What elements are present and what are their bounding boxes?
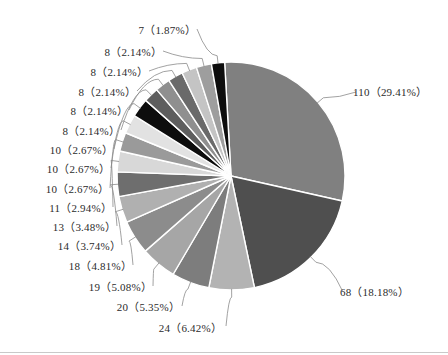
pie-chart-figure: 7（1.87%） 8（2.14%） 8（2.14%） 8（2.14%） 8（2.…: [0, 0, 448, 355]
slice-label-13: 13（3.48%）: [16, 221, 116, 233]
slice-label-10-a: 10（2.67%）: [13, 144, 113, 156]
leader-line: [153, 263, 159, 286]
slice-label-19: 19（5.08%）: [52, 281, 152, 293]
pie-slice-group: [117, 62, 345, 290]
slice-label-8-c: 8（2.14%）: [36, 86, 136, 98]
slice-label-68: 68（18.18%）: [340, 286, 409, 298]
leader-line: [182, 282, 191, 307]
leader-line: [163, 51, 204, 66]
slice-label-8-a: 8（2.14%）: [62, 46, 162, 58]
slice-label-10-b: 10（2.67%）: [10, 163, 110, 175]
slice-label-110: 110（29.41%）: [353, 86, 427, 98]
leader-line: [310, 256, 343, 292]
slice-label-8-b: 8（2.14%）: [48, 66, 148, 78]
slice-label-10-c: 10（2.67%）: [9, 183, 109, 195]
leader-line: [317, 92, 356, 103]
slice-label-14: 14（3.74%）: [21, 240, 121, 252]
slice-label-8-e: 8（2.14%）: [20, 125, 120, 137]
leader-line: [226, 289, 232, 326]
slice-label-8-d: 8（2.14%）: [28, 105, 128, 117]
slice-label-20: 20（5.35%）: [80, 301, 180, 313]
leader-line: [149, 63, 190, 71]
bottom-divider: [0, 352, 448, 353]
slice-label-7: 7（1.87%）: [96, 24, 196, 36]
slice-label-24: 24（6.42%）: [122, 322, 222, 334]
slice-label-18: 18（4.81%）: [32, 260, 132, 272]
slice-label-11: 11（2.94%）: [12, 202, 112, 214]
